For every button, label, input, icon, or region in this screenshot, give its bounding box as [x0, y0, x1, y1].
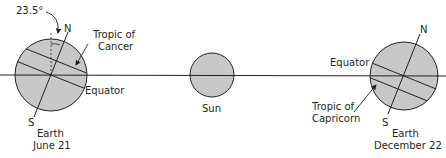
north-label-right: N: [420, 24, 427, 35]
earth-december-22: N S Equator Tropic of Capricorn Earth De…: [311, 24, 446, 151]
earth-orbit-seasons-diagram: 23.5° N S Tropic of Cancer Equator Earth…: [0, 0, 446, 158]
north-label-left: N: [64, 23, 71, 34]
tropic-of-capricorn-label-1: Tropic of: [311, 101, 355, 112]
equator-label-right: Equator: [330, 57, 370, 68]
tropic-of-cancer-label-2: Cancer: [98, 41, 134, 52]
angle-pointer-arrow: [46, 12, 58, 33]
tropic-of-cancer-label-1: Tropic of: [92, 29, 136, 40]
south-label-right: S: [382, 117, 388, 128]
earth-label-right: Earth: [392, 128, 419, 139]
date-label-december: December 22: [374, 140, 442, 151]
equator-label-left: Equator: [85, 85, 125, 96]
tropic-of-capricorn-label-2: Capricorn: [312, 113, 360, 124]
earth-label-left: Earth: [37, 128, 64, 139]
date-label-june: June 21: [32, 140, 71, 151]
sun-label: Sun: [202, 103, 221, 114]
south-label-left: S: [28, 117, 34, 128]
tropic-pointer-arrow-right: [354, 85, 376, 112]
earth-june-21: 23.5° N S Tropic of Cancer Equator Earth…: [6, 5, 136, 151]
tilt-angle-label: 23.5°: [16, 5, 43, 16]
sun: Sun: [190, 53, 234, 114]
